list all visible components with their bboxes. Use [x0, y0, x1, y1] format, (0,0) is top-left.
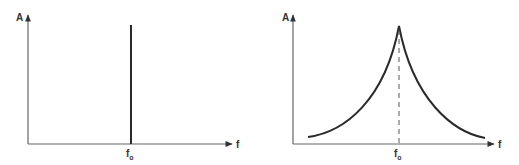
spectrum-diagrams: A f fo A f fo [0, 0, 519, 165]
f0-sub: o [397, 154, 401, 161]
peak-curve [308, 26, 485, 138]
left-y-axis-label: A [16, 12, 23, 23]
right-y-axis-label: A [282, 12, 289, 23]
f0-sub: o [129, 154, 133, 161]
left-f0-label: fo [126, 148, 134, 161]
left-x-axis-label: f [236, 139, 240, 150]
right-f0-label: fo [394, 148, 402, 161]
right-x-axis-label: f [498, 139, 502, 150]
left-diagram: A f fo [16, 12, 240, 161]
right-diagram: A f fo [282, 12, 502, 161]
